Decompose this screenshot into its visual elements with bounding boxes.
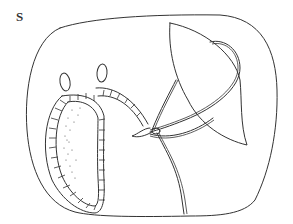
outer-frame <box>26 15 277 217</box>
chain-stitch-oval <box>45 88 148 213</box>
petal-right <box>96 64 108 83</box>
illustration <box>0 0 293 224</box>
thread-tail <box>132 128 152 137</box>
petal-left <box>59 72 72 91</box>
stipple-shading <box>63 107 80 178</box>
thread-loop-inner <box>150 44 238 130</box>
needle-shaft <box>157 133 184 214</box>
